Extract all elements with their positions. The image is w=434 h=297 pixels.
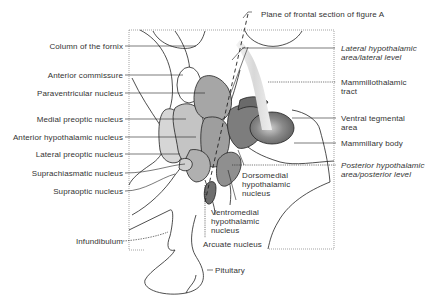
label-lateral-hypothalamic-area: Lateral hypothalamic area/lateral level	[341, 44, 417, 62]
label-arcuate-nucleus: Arcuate nucleus	[203, 240, 262, 249]
label-supraoptic-nucleus: Supraoptic nucleus	[53, 187, 123, 196]
paraventricular-region	[194, 76, 232, 121]
label-dorsomedial-hypothalamic-nucleus: Dorsomedial hypothalamic nucleus	[242, 171, 290, 198]
label-ventral-tegmental-area: Ventral tegmental area	[341, 114, 405, 132]
plane-of-frontal-section-label: Plane of frontal section of figure A	[261, 10, 384, 19]
label-medial-preoptic-nucleus: Medial preoptic nucleus	[37, 115, 123, 124]
label-suprachiasmatic-nucleus: Suprachiasmatic nucleus	[32, 169, 123, 178]
label-column-of-fornix: Column of the fornix	[49, 42, 123, 51]
hypothalamus-diagram: Plane of frontal section of figure A Col…	[0, 0, 434, 297]
arcuate-region	[204, 182, 216, 205]
mammillary-body-shape	[250, 112, 294, 144]
label-anterior-commissure: Anterior commissure	[48, 71, 123, 80]
ventromedial-region	[216, 152, 241, 186]
label-ventromedial-hypothalamic-nucleus: Ventromedial hypothalamic nucleus	[211, 208, 259, 235]
label-pituitary: Pituitary	[215, 266, 245, 275]
label-mammillary-body: Mammillary body	[341, 139, 403, 148]
label-lateral-preoptic-nucleus: Lateral preoptic nucleus	[36, 150, 123, 159]
label-mammillothalamic-tract: Mammillothalamic tract	[341, 78, 407, 96]
label-anterior-hypothalamic-nucleus: Anterior hypothalamic nucleus	[13, 133, 123, 142]
label-infundibulum: Infundibulum	[76, 237, 123, 246]
label-paraventricular-nucleus: Paraventricular nucleus	[37, 89, 123, 98]
label-posterior-hypothalamic-area: Posterior hypothalamic area/posterior le…	[341, 161, 425, 179]
